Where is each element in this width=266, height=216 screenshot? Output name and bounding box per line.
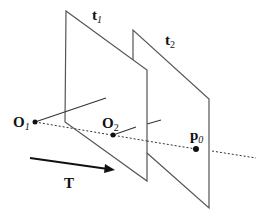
origin-2-dot	[111, 133, 116, 138]
label-t1: t1	[92, 8, 102, 25]
optical-axis-2	[113, 120, 161, 135]
image-plane-1	[65, 11, 147, 181]
point-p0-dot	[193, 146, 199, 152]
optical-axis-1	[35, 98, 106, 122]
dotted-ray	[35, 122, 256, 158]
label-t2: t2	[165, 33, 175, 50]
label-o1: O1	[13, 115, 30, 132]
label-t: T	[64, 176, 74, 191]
translation-arrow	[30, 158, 115, 173]
origin-1-dot	[33, 120, 38, 125]
label-o2: O2	[102, 116, 119, 133]
label-p0: p0	[190, 128, 203, 145]
image-plane-2	[133, 30, 209, 208]
two-view-geometry-diagram	[0, 0, 266, 216]
